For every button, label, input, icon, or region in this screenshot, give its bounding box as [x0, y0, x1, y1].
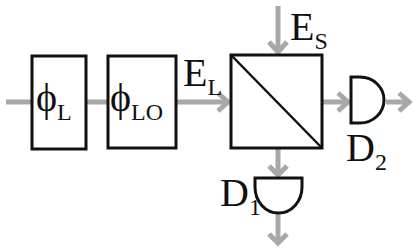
- detector-d1-label: D1: [220, 173, 261, 213]
- detector-d2-label: D2: [346, 128, 387, 168]
- local-field-label: EL: [183, 53, 222, 93]
- detector-d2-subscript: 2: [375, 149, 387, 175]
- detector-d2-icon: [351, 77, 384, 123]
- phase-L-label: ϕL: [36, 78, 72, 118]
- detector-d2-symbol: D: [346, 125, 375, 170]
- local-field-symbol: E: [183, 50, 207, 95]
- phase-L-symbol: ϕ: [36, 75, 57, 120]
- phase-LO-subscript: LO: [131, 99, 163, 125]
- local-field-subscript: L: [207, 74, 222, 100]
- signal-field-symbol: E: [290, 4, 314, 49]
- detector-d1-subscript: 1: [249, 194, 261, 220]
- phase-LO-symbol: ϕ: [110, 75, 131, 120]
- detector-d1-symbol: D: [220, 170, 249, 215]
- detector-d1-icon: [255, 178, 302, 213]
- heterodyne-diagram: ϕL ϕLO EL ES D2 D1: [0, 0, 419, 251]
- signal-field-subscript: S: [314, 28, 327, 54]
- phase-LO-label: ϕLO: [110, 78, 163, 118]
- phase-L-subscript: L: [57, 99, 72, 125]
- signal-field-label: ES: [290, 7, 328, 47]
